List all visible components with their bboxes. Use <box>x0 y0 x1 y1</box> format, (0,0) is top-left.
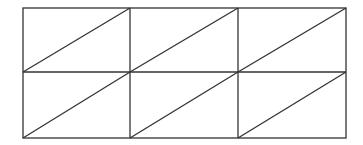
cell-diagonal <box>238 8 346 72</box>
triangulated-grid-diagram <box>0 0 363 145</box>
cell-diagonal <box>130 8 238 72</box>
cell-diagonal <box>23 72 130 138</box>
cell-diagonal <box>23 8 130 72</box>
cell-diagonal <box>130 72 238 138</box>
outer-rectangle <box>23 8 346 138</box>
cell-diagonal <box>238 72 346 138</box>
diagram-container <box>0 0 363 145</box>
